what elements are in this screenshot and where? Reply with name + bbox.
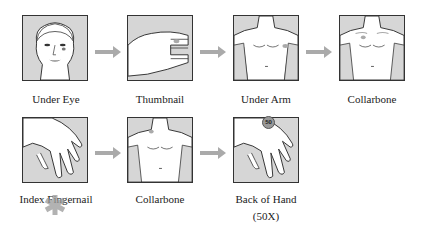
dose-badge: 50 bbox=[262, 116, 275, 129]
torso-icon bbox=[128, 118, 192, 182]
index-fingernail-image bbox=[22, 117, 88, 183]
arrow-right-icon bbox=[95, 145, 121, 157]
step-label-collarbone: Collarbone bbox=[317, 93, 425, 105]
arrow-right-icon bbox=[200, 44, 226, 56]
start-marker-icon bbox=[42, 192, 68, 222]
collarbone-image-2 bbox=[127, 117, 193, 183]
arrow-right-icon bbox=[200, 145, 226, 157]
step-label-under-eye: Under Eye bbox=[1, 93, 111, 105]
under-arm-image bbox=[233, 15, 299, 81]
step-label-under-arm: Under Arm bbox=[211, 93, 321, 105]
arrow-right-icon bbox=[306, 44, 332, 56]
step-sublabel-dose: (50X) bbox=[211, 210, 321, 222]
thumbnail-image bbox=[127, 15, 193, 81]
under-eye-image bbox=[22, 15, 88, 81]
step-label-collarbone-2: Collarbone bbox=[105, 193, 215, 205]
step-label-thumbnail: Thumbnail bbox=[105, 93, 215, 105]
face-icon bbox=[23, 16, 87, 80]
collarbone-image bbox=[339, 15, 405, 81]
step-label-back-of-hand: Back of Hand bbox=[211, 193, 321, 205]
hand-icon bbox=[23, 118, 87, 182]
thumb-icon bbox=[128, 16, 192, 80]
torso-icon bbox=[234, 16, 298, 80]
arrow-right-icon bbox=[95, 44, 121, 56]
torso-icon bbox=[340, 16, 404, 80]
